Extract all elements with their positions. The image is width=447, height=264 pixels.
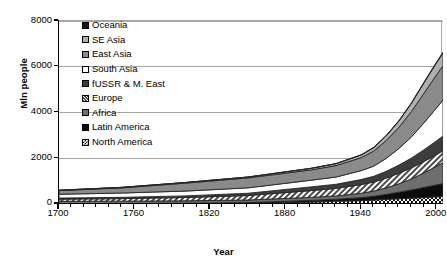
y-tick-0: 0 [8, 197, 52, 207]
legend-label-north-america: North America [92, 137, 152, 147]
population-area-chart: Mln people 8000 6000 4000 2000 0 [0, 0, 447, 264]
legend-swatch-fussr-m-east-icon [82, 80, 89, 87]
legend-swatch-east-asia-icon [82, 51, 89, 58]
chart-legend: OceaniaSE AsiaEast AsiaSouth AsiafUSSR &… [82, 18, 190, 149]
legend-swatch-africa-icon [82, 109, 89, 116]
x-tick-1760: 1760 [104, 208, 164, 218]
legend-item-fussr-m-east[interactable]: fUSSR & M. East [82, 76, 190, 91]
x-tick-1940: 1940 [330, 208, 390, 218]
legend-swatch-se-asia-icon [82, 36, 89, 43]
legend-item-oceania[interactable]: Oceania [82, 18, 190, 33]
x-axis-tick-labels: 170017601820188019402000 [0, 208, 447, 228]
legend-item-europe[interactable]: Europe [82, 91, 190, 106]
legend-item-se-asia[interactable]: SE Asia [82, 33, 190, 48]
legend-swatch-south-asia-icon [82, 66, 89, 73]
legend-label-europe: Europe [92, 93, 123, 103]
legend-item-north-america[interactable]: North America [82, 135, 190, 150]
legend-label-latin-america: Latin America [92, 122, 150, 132]
legend-item-africa[interactable]: Africa [82, 106, 190, 121]
legend-label-se-asia: SE Asia [92, 35, 125, 45]
legend-label-east-asia: East Asia [92, 49, 132, 59]
legend-label-fussr-m-east: fUSSR & M. East [92, 79, 165, 89]
legend-swatch-latin-america-icon [82, 124, 89, 131]
x-tick-1820: 1820 [179, 208, 239, 218]
legend-label-oceania: Oceania [92, 20, 127, 30]
legend-item-east-asia[interactable]: East Asia [82, 47, 190, 62]
legend-swatch-north-america-icon [82, 139, 89, 146]
legend-swatch-oceania-icon [82, 22, 89, 29]
legend-item-latin-america[interactable]: Latin America [82, 120, 190, 135]
legend-label-south-asia: South Asia [92, 64, 137, 74]
y-tick-2000: 2000 [8, 152, 52, 162]
y-tick-6000: 6000 [8, 60, 52, 70]
x-axis-title: Year [0, 246, 447, 257]
legend-item-south-asia[interactable]: South Asia [82, 62, 190, 77]
x-tick-1700: 1700 [28, 208, 88, 218]
legend-swatch-europe-icon [82, 95, 89, 102]
y-tick-8000: 8000 [8, 15, 52, 25]
x-tick-2000: 2000 [406, 208, 447, 218]
y-tick-4000: 4000 [8, 106, 52, 116]
legend-label-africa: Africa [92, 108, 116, 118]
x-tick-1880: 1880 [255, 208, 315, 218]
